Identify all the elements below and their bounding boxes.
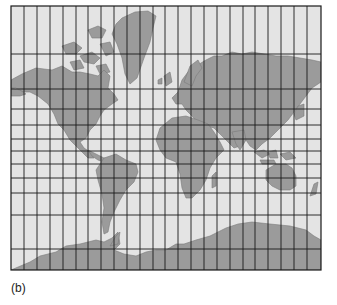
mercator-world-map [0, 0, 337, 305]
figure-caption: (b) [11, 281, 26, 295]
